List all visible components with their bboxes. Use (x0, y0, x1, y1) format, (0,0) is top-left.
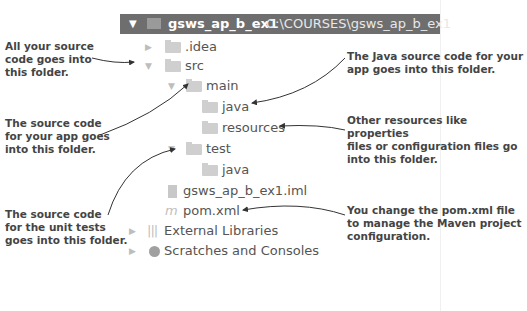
callout-arrows (0, 0, 527, 311)
